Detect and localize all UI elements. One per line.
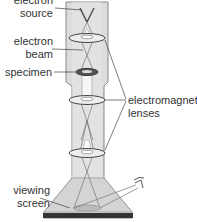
viewing-screen-spot <box>73 205 101 211</box>
label-lenses-2: lenses <box>128 107 160 119</box>
lens-1 <box>69 34 105 43</box>
label-electron-beam-1: electron <box>14 35 53 47</box>
leader-lens-3 <box>105 101 126 150</box>
tem-diagram: electron source electron beam specimen e… <box>0 0 197 222</box>
lens-2 <box>69 96 105 105</box>
label-viewing-screen-2: screen <box>17 197 50 209</box>
label-viewing-screen-1: viewing <box>13 184 50 196</box>
eye-icon <box>134 177 144 188</box>
specimen-ring <box>76 69 98 76</box>
label-electron-beam-2: beam <box>25 48 53 60</box>
lens-3 <box>69 149 105 158</box>
label-electron-source-2: source <box>20 7 53 19</box>
base-bar <box>43 213 133 218</box>
label-specimen: specimen <box>5 66 52 78</box>
label-electron-source-1: electron <box>14 0 53 6</box>
label-lenses-1: electromagnetic <box>128 94 197 106</box>
